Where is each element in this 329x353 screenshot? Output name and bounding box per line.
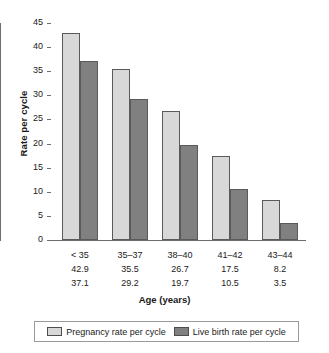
legend-swatch-light — [47, 327, 62, 336]
legend-item: Pregnancy rate per cycle — [47, 327, 166, 337]
bar — [112, 69, 130, 240]
live-birth-rate-value: 37.1 — [55, 278, 105, 289]
y-axis-tick-label: 35 — [11, 66, 43, 75]
pregnancy-rate-value: 17.5 — [205, 264, 255, 275]
y-axis-line — [0, 23, 1, 241]
x-axis-title: Age (years) — [0, 294, 329, 305]
category-label: 41–42 — [205, 250, 255, 261]
y-axis-tick-label: 20 — [11, 139, 43, 148]
category-label: 35–37 — [105, 250, 155, 261]
chart-legend: Pregnancy rate per cycleLive birth rate … — [34, 321, 299, 342]
bar — [262, 200, 280, 240]
live-birth-rate-value: 10.5 — [205, 278, 255, 289]
bar — [280, 223, 298, 240]
bar — [162, 111, 180, 240]
x-axis-line — [51, 240, 306, 241]
bar — [230, 189, 248, 240]
legend-label: Live birth rate per cycle — [193, 327, 286, 337]
pregnancy-rate-value: 42.9 — [55, 264, 105, 275]
bar — [180, 145, 198, 240]
category-label: 43–44 — [255, 250, 305, 261]
live-birth-rate-value: 29.2 — [105, 278, 155, 289]
bar — [130, 99, 148, 240]
pregnancy-rate-value: 35.5 — [105, 264, 155, 275]
bar — [80, 61, 98, 240]
live-birth-rate-value: 19.7 — [155, 278, 205, 289]
y-axis-tick-label: 40 — [11, 42, 43, 51]
y-axis-tick-label: 25 — [11, 114, 43, 123]
y-axis-tick-label: 30 — [11, 90, 43, 99]
legend-swatch-dark — [174, 327, 189, 336]
pregnancy-rate-value: 8.2 — [255, 264, 305, 275]
y-axis-tick-label: 5 — [11, 211, 43, 220]
bar — [212, 156, 230, 240]
y-axis-tick-label: 45 — [11, 18, 43, 27]
bar-chart-figure: Rate per cycle 051015202530354045 < 3542… — [0, 0, 329, 353]
pregnancy-rate-value: 26.7 — [155, 264, 205, 275]
bar — [62, 33, 80, 240]
category-label: 38–40 — [155, 250, 205, 261]
plot-area — [51, 23, 305, 240]
y-axis-tick-label: 10 — [11, 187, 43, 196]
y-axis-tick — [47, 240, 51, 241]
live-birth-rate-value: 3.5 — [255, 278, 305, 289]
category-label: < 35 — [55, 250, 105, 261]
y-axis-tick-label: 0 — [11, 235, 43, 244]
legend-item: Live birth rate per cycle — [174, 327, 286, 337]
legend-label: Pregnancy rate per cycle — [66, 327, 166, 337]
y-axis-tick-label: 15 — [11, 163, 43, 172]
